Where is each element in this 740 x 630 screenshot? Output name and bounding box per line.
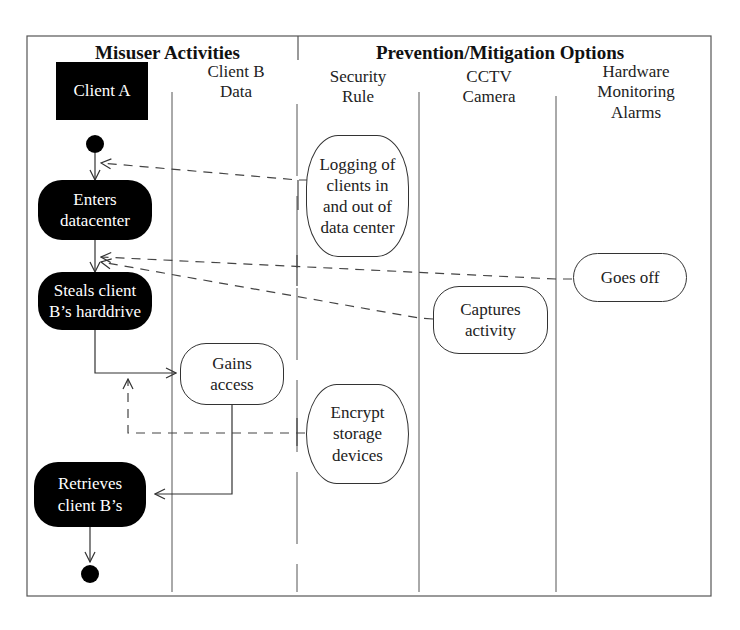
lane-header-line: Security — [302, 67, 414, 87]
node-retrieves: Retrieves client B’s — [34, 462, 146, 527]
node-text-line: Encrypt — [331, 402, 385, 423]
node-enters-datacenter: Enters datacenter — [38, 180, 152, 240]
node-goes-off: Goes off — [573, 253, 687, 302]
node-text-line: storage — [331, 423, 385, 444]
lane-header-line: Hardware — [566, 62, 706, 82]
node-text-line: access — [210, 374, 253, 395]
flow-steals-to-gains — [95, 330, 176, 373]
node-text-line: and out of — [319, 196, 395, 217]
node-text-line: datacenter — [60, 210, 130, 231]
lane-header-line: Camera — [430, 87, 548, 107]
node-text-line: Retrieves — [58, 473, 123, 494]
lane-header-client-a: Client A — [56, 62, 148, 120]
end-node — [81, 565, 99, 583]
lane-header-line: Monitoring — [566, 82, 706, 102]
node-steals-harddrive: Steals client B’s harddrive — [38, 272, 152, 330]
node-text-line: B’s harddrive — [49, 301, 141, 322]
node-text-line: client B’s — [58, 495, 123, 516]
node-logging: Logging of clients in and out of data ce… — [306, 135, 409, 257]
node-text-line: Steals client — [49, 280, 141, 301]
node-captures-activity: Captures activity — [433, 286, 548, 354]
flow-gains-to-retrieves — [155, 404, 232, 494]
node-text-line: devices — [331, 445, 385, 466]
node-encrypt: Encrypt storage devices — [306, 384, 409, 484]
lane-header-cctv-camera: CCTV Camera — [430, 67, 548, 108]
node-text-line: clients in — [319, 175, 395, 196]
node-text-line: Logging of — [319, 154, 395, 175]
node-text-line: Enters — [60, 189, 130, 210]
node-text-line: Goes off — [601, 267, 660, 288]
start-node — [86, 135, 104, 153]
lane-header-client-a-label: Client A — [73, 81, 130, 101]
node-text-line: data center — [319, 217, 395, 238]
node-text-line: Captures — [460, 299, 520, 320]
lane-header-client-b-data: Client B Data — [180, 62, 292, 103]
lane-header-security-rule: Security Rule — [302, 67, 414, 108]
lane-header-hardware-alarms: Hardware Monitoring Alarms — [566, 62, 706, 123]
lane-header-line: Rule — [302, 87, 414, 107]
mitigation-logging — [101, 163, 308, 180]
lane-header-line: CCTV — [430, 67, 548, 87]
lane-header-line: Data — [180, 82, 292, 102]
node-gains-access: Gains access — [180, 343, 284, 405]
node-text-line: activity — [460, 320, 520, 341]
node-text-line: Gains — [210, 353, 253, 374]
lane-header-line: Client B — [180, 62, 292, 82]
lane-header-line: Alarms — [566, 103, 706, 123]
